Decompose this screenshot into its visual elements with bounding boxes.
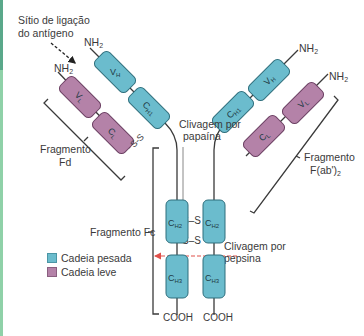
- antigen-site-label-line2: do antígeno: [18, 27, 74, 39]
- legend: Cadeia pesada Cadeia leve: [47, 251, 132, 279]
- legend-item-heavy-chain: Cadeia pesada: [47, 251, 132, 265]
- left-cl-domain: CL: [90, 110, 135, 155]
- fd-label-line1: Fragmento: [40, 143, 91, 155]
- legend-label-heavy-chain: Cadeia pesada: [61, 252, 132, 264]
- left-ch1-domain: CH1: [126, 85, 171, 130]
- antigen-site-label-line1: Sítio de ligação: [18, 14, 90, 26]
- papain-cleavage-label-line2: papaína: [183, 130, 221, 142]
- pepsin-cleavage-label-line1: Clivagem por: [224, 240, 286, 252]
- nh2-label-left-heavy: NH2: [84, 36, 103, 49]
- antigen-site-arrow: [51, 43, 75, 63]
- fab2-label-line1: Fragmento: [304, 151, 355, 163]
- right-vl-domain: VL: [280, 80, 325, 125]
- legend-label-light-chain: Cadeia leve: [61, 266, 116, 278]
- fd-label-line2: Fd: [59, 156, 71, 168]
- right-vh-domain: VH: [246, 57, 291, 102]
- nh2-label-right-light: NH2: [329, 70, 348, 83]
- cooh-label-left: COOH: [163, 312, 193, 323]
- left-vh-domain: VH: [92, 49, 137, 94]
- heavy-chain-swatch: [47, 253, 57, 263]
- legend-item-light-chain: Cadeia leve: [47, 265, 132, 279]
- left-vl-domain: VL: [57, 74, 102, 119]
- nh2-label-left-light: NH2: [54, 62, 73, 75]
- cooh-label-right: COOH: [203, 312, 233, 323]
- pepsin-cleavage-label-line2: pepsina: [224, 252, 261, 264]
- antibody-diagram: VH CH1 VL CL S-S VH CH1 VL CL NH2 NH2 NH…: [0, 0, 364, 336]
- fab2-label-line2: F(ab')2: [310, 164, 341, 177]
- papain-cleavage-label-line1: Clivagem por: [179, 118, 241, 130]
- fc-label: Fragmento Fc: [90, 226, 155, 238]
- right-cl-domain: CL: [241, 113, 286, 158]
- nh2-label-right-heavy: NH2: [299, 42, 318, 55]
- light-chain-swatch: [47, 267, 57, 277]
